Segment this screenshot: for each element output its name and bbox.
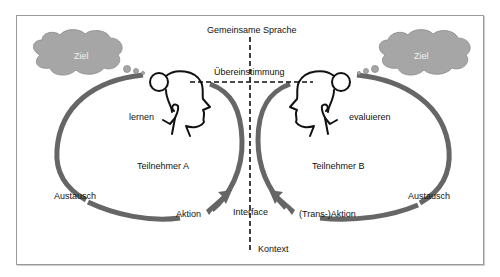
exchange-a-label: Austausch [54,192,96,201]
shared-language-label: Gemeinsame Sprache [207,26,297,35]
action-b-label: (Trans-)Aktion [299,210,356,219]
action-a-label: Aktion [176,210,201,219]
head-participant-a-icon [150,71,210,136]
diagram-graphics [0,0,500,277]
exchange-b-label: Austausch [408,192,450,201]
goal-cloud-a-icon [33,30,144,75]
interface-label: Interface [233,208,268,217]
participant-b-label: Teilnehmer B [312,162,365,171]
process-b-label: evaluieren [349,113,391,122]
goal-b-label: Ziel [414,52,429,61]
context-label: Kontext [258,245,289,254]
head-participant-b-icon [290,71,350,136]
process-a-label: lernen [129,113,154,122]
goal-a-label: Ziel [74,52,89,61]
agreement-label: Übereinstimmung [214,68,285,77]
participant-a-label: Teilnehmer A [137,162,189,171]
